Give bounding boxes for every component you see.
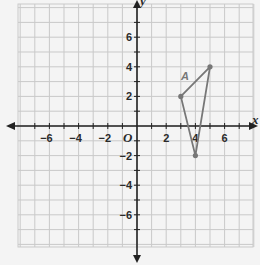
- vertex-point: [207, 64, 212, 69]
- y-tick-label: −6: [119, 209, 132, 221]
- y-tick-label: −2: [119, 150, 132, 162]
- y-tick-label: −4: [119, 179, 132, 191]
- y-tick-label: 4: [126, 61, 133, 73]
- vertex-point: [193, 153, 198, 158]
- coordinate-plane: −6−4−2246642−2−4−6 x y O A: [0, 0, 260, 265]
- y-axis-down-arrow-icon: [133, 255, 141, 263]
- x-tick-label: −4: [69, 132, 82, 144]
- x-tick-label: −2: [99, 132, 112, 144]
- x-tick-label: −6: [40, 132, 53, 144]
- vertex-point: [178, 94, 183, 99]
- x-tick-label: 2: [163, 132, 169, 144]
- y-tick-label: 2: [126, 90, 132, 102]
- x-axis-label: x: [251, 112, 259, 127]
- y-axis-label: y: [138, 0, 146, 8]
- y-tick-label: 6: [126, 31, 132, 43]
- figure-label: A: [180, 70, 189, 82]
- x-axis-left-arrow-icon: [6, 122, 15, 130]
- origin-label: O: [123, 130, 133, 145]
- x-tick-label: 6: [222, 132, 228, 144]
